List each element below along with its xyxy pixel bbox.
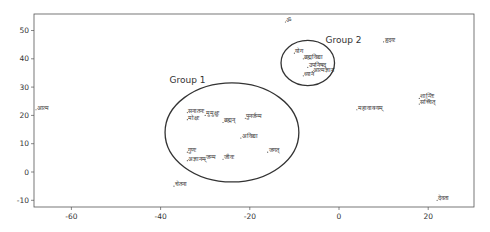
y-tick-label: 50 xyxy=(19,26,29,35)
point-label: महावाक्यम् xyxy=(358,104,384,112)
point-label: देवता xyxy=(438,194,449,201)
x-tick-label: -60 xyxy=(65,212,77,221)
x-tick-label: 0 xyxy=(337,212,342,221)
point-label: जन्म xyxy=(206,153,216,160)
scatter-chart: -60-40-20020 50403020100-10 ॐहृदयःयोगब्र… xyxy=(0,0,490,232)
group-label: Group 1 xyxy=(170,75,206,85)
x-axis: -60-40-20020 xyxy=(65,207,433,221)
point-label: ब्रह्मविद्या xyxy=(304,53,323,61)
point-label: ब्रह्मन् xyxy=(224,116,236,124)
group-label: Group 2 xyxy=(326,35,362,45)
point-label: जीवः xyxy=(224,153,235,160)
point-label: पुनर्जन्म xyxy=(246,112,262,120)
x-tick-label: -40 xyxy=(154,212,166,221)
plot-frame xyxy=(34,14,474,207)
point-label: अज्ञानम् xyxy=(188,155,207,163)
group-ellipse-group-1 xyxy=(165,83,299,182)
y-axis: 50403020100-10 xyxy=(17,26,34,205)
x-tick-label: 20 xyxy=(423,212,433,221)
group-ellipse-group-2 xyxy=(281,40,335,85)
point-label: चेतना xyxy=(175,180,187,187)
x-tick-label: -20 xyxy=(244,212,256,221)
point-label: योग xyxy=(295,47,304,54)
point-label: हृदयः xyxy=(385,36,396,43)
point-label: ॐ xyxy=(286,16,292,23)
point-label: आत्मज्ञान xyxy=(313,66,335,73)
y-tick-label: 20 xyxy=(19,111,29,120)
point-label: गुणः xyxy=(188,146,197,154)
group-annotations: Group 1Group 2 xyxy=(170,35,362,85)
point-label: मुमुक्षुः xyxy=(206,109,220,117)
point-label: ध्यान xyxy=(304,70,315,77)
point-label: सनातनः xyxy=(188,107,205,114)
y-tick-label: 30 xyxy=(19,83,29,92)
point-label: सच्चित् xyxy=(420,98,436,106)
y-tick-label: -10 xyxy=(17,196,29,205)
y-tick-label: 40 xyxy=(19,54,29,63)
point-label: मोक्षः xyxy=(188,114,200,121)
point-label: जगत् xyxy=(269,146,280,154)
y-tick-label: 10 xyxy=(19,139,29,148)
plot-border xyxy=(34,14,474,207)
point-label: आत्म xyxy=(37,104,49,111)
point-labels: ॐहृदयःयोगब्रह्मविद्याउपनिषद्आत्मज्ञानध्य… xyxy=(35,16,449,201)
point-label: अविद्या xyxy=(242,132,258,139)
y-tick-label: 0 xyxy=(24,168,29,177)
